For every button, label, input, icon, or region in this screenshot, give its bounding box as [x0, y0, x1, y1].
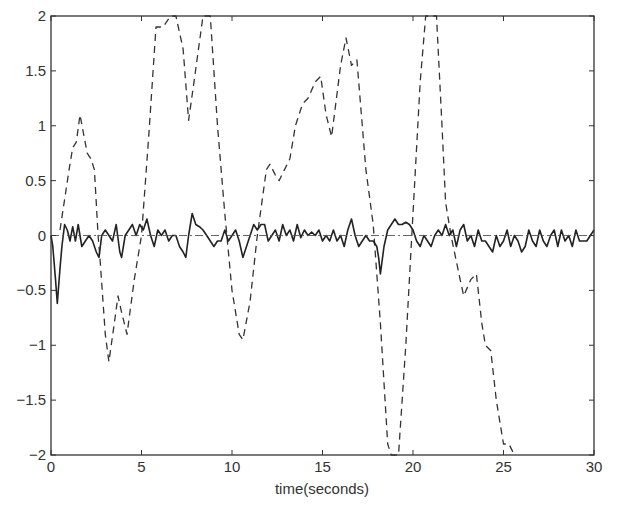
x-tick-label: 10 [224, 458, 241, 475]
x-tick-label: 5 [137, 458, 145, 475]
y-tick-label: 1.5 [25, 62, 46, 79]
x-tick-label: 30 [586, 458, 603, 475]
y-tick-label: 0.5 [25, 172, 46, 189]
y-axis-tick-labels: −2−1.5−1−0.500.511.52 [16, 7, 46, 463]
y-tick-label: −0.5 [16, 281, 46, 298]
x-tick-label: 0 [47, 458, 55, 475]
x-axis-tick-labels: 051015202530 [47, 458, 603, 475]
y-tick-label: −1.5 [16, 391, 46, 408]
y-tick-label: −1 [29, 336, 46, 353]
y-tick-label: 0 [38, 227, 46, 244]
x-axis-label: time(seconds) [275, 480, 369, 497]
y-tick-label: −2 [29, 446, 46, 463]
y-tick-label: 1 [38, 117, 46, 134]
x-tick-label: 15 [314, 458, 331, 475]
x-tick-label: 20 [405, 458, 422, 475]
x-tick-label: 25 [495, 458, 512, 475]
y-tick-label: 2 [38, 7, 46, 24]
series-layer [51, 16, 594, 455]
plot-area [51, 16, 594, 455]
line-chart: 051015202530 −2−1.5−1−0.500.511.52 time(… [0, 0, 617, 505]
